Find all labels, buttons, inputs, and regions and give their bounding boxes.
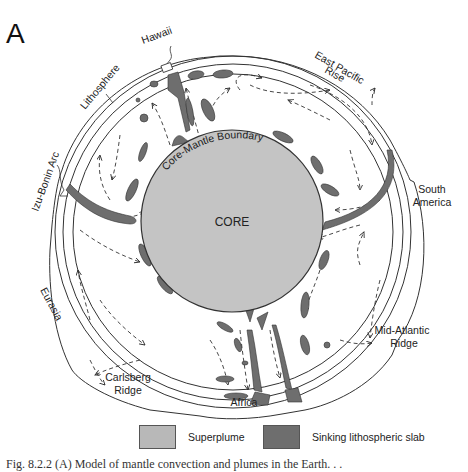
hawaii-island-marker: [161, 63, 173, 73]
izu-bonin-arc-label: Izu-Bonin Arc: [29, 150, 62, 213]
lithosphere-leader-line: [106, 94, 113, 103]
south-america-label-2: America: [413, 196, 452, 208]
legend-superplume-label: Superplume: [188, 431, 245, 443]
carlsberg-ridge-label-1: Carlsberg: [105, 371, 151, 383]
figure-caption: Fig. 8.2.2 (A) Model of mantle convectio…: [6, 457, 342, 472]
eurasia-label: Eurasia: [38, 285, 65, 322]
core-label: CORE: [215, 215, 250, 229]
south-america-label-1: South: [418, 183, 446, 195]
mid-atlantic-ridge-label-1: Mid-Atlantic: [375, 324, 430, 336]
mid-atlantic-ridge-label-2: Ridge: [390, 337, 418, 349]
legend: Superplume Sinking lithospheric slab: [0, 422, 468, 448]
superplume-swatch: [139, 425, 176, 449]
hawaii-label: Hawaii: [140, 24, 174, 46]
slab-swatch: [263, 425, 300, 449]
lithosphere-label: Lithosphere: [77, 61, 122, 111]
carlsberg-ridge-label-2: Ridge: [114, 384, 142, 396]
legend-slab-label: Sinking lithospheric slab: [312, 431, 425, 443]
africa-label: Africa: [231, 396, 258, 408]
